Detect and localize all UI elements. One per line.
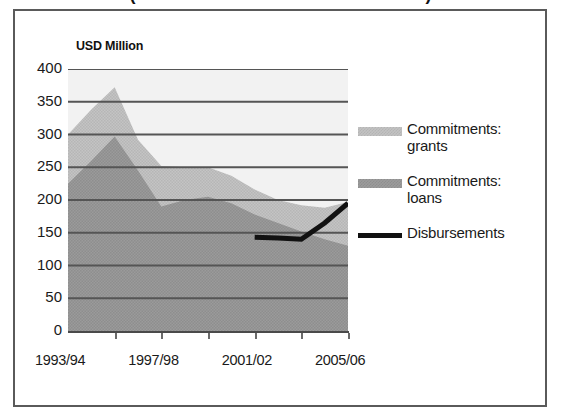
chart-title-text: (Commitments and disbursements): [0, 0, 561, 5]
legend-item-grants[interactable]: Commitments: grants: [358, 120, 501, 154]
legend-swatch-grants-icon: [358, 127, 402, 136]
x-tick-mark: [208, 333, 210, 339]
x-tick-mark: [348, 333, 350, 339]
legend-item-line[interactable]: Disbursements: [358, 224, 504, 241]
x-axis-labels: 1993/941997/982001/022005/06: [0, 352, 561, 374]
legend-item-loans[interactable]: Commitments: loans: [358, 172, 501, 206]
y-tick-label-0: 0: [18, 321, 62, 338]
x-tick-mark: [115, 333, 117, 339]
x-tick-mark: [255, 333, 257, 339]
legend-label: Commitments: grants: [407, 120, 501, 154]
y-axis-labels: 400350300250200150100500: [16, 0, 62, 401]
x-tick-label-1997-98: 1997/98: [128, 352, 178, 368]
legend-swatch-loans-icon: [358, 179, 402, 188]
plot-area: [68, 69, 348, 331]
y-tick-label-250: 250: [18, 157, 62, 174]
y-tick-label-350: 350: [18, 92, 62, 109]
x-tick-label-2005-06: 2005/06: [315, 352, 365, 368]
legend-label: Commitments: loans: [407, 172, 501, 206]
y-tick-label-150: 150: [18, 223, 62, 240]
x-tick-label-2001-02: 2001/02: [222, 352, 272, 368]
chart-title-cropped: (Commitments and disbursements): [0, 0, 561, 9]
y-tick-label-400: 400: [18, 59, 62, 76]
x-tick-mark: [301, 333, 303, 339]
y-tick-label-300: 300: [18, 125, 62, 142]
x-tick-mark: [161, 333, 163, 339]
plot-svg: [68, 69, 348, 331]
y-tick-label-50: 50: [18, 288, 62, 305]
y-tick-label-200: 200: [18, 190, 62, 207]
legend-swatch-line-icon: [358, 233, 402, 238]
x-tick-label-1993-94: 1993/94: [35, 352, 85, 368]
y-axis-title: USD Million: [76, 39, 143, 53]
legend-label: Disbursements: [407, 224, 504, 241]
y-tick-label-100: 100: [18, 256, 62, 273]
